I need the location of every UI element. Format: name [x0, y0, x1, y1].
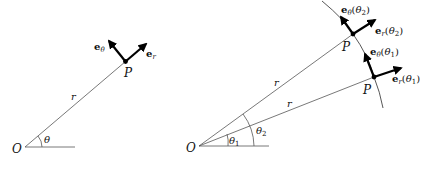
radius-line-2	[199, 34, 353, 146]
point2-label: P	[341, 40, 351, 54]
radius-label: r	[71, 91, 77, 102]
point1-label: P	[362, 83, 372, 97]
theta2-label: θ2	[256, 125, 267, 138]
e-theta-arrow	[109, 41, 126, 62]
e-theta-theta2-arrow	[341, 17, 353, 34]
e-theta-theta2-label: eθ(θ2)	[341, 4, 370, 17]
radius-line-1	[199, 77, 374, 146]
origin-label-2: O	[186, 141, 196, 155]
theta-arc	[38, 136, 42, 147]
e-r-arrow	[126, 44, 147, 62]
radius-line	[25, 62, 126, 148]
e-r-theta2-label: er(θ2)	[375, 25, 403, 38]
radius1-label: r	[287, 98, 293, 109]
theta-label: θ	[44, 134, 50, 145]
radius2-label: r	[274, 77, 280, 88]
point-p1-dot	[372, 75, 377, 80]
e-theta-theta1-arrow	[365, 54, 374, 77]
e-r-theta2-arrow	[353, 20, 375, 34]
point-p2-dot	[351, 32, 356, 37]
point-label: P	[123, 66, 133, 80]
e-r-theta1-label: er(θ1)	[392, 73, 420, 86]
left-figure: O P r θ eθ er	[12, 41, 156, 156]
polar-basis-diagram: O P r θ eθ er O P P r r θ1 θ2 eθ(θ2) er(	[0, 0, 444, 171]
theta2-arc	[243, 114, 254, 146]
origin-label: O	[12, 142, 22, 156]
e-theta-label: eθ	[94, 41, 105, 54]
right-figure: O P P r r θ1 θ2 eθ(θ2) er(θ2) eθ(θ1) er(…	[186, 1, 420, 155]
point-p-dot	[123, 59, 128, 64]
e-r-label: er	[146, 48, 156, 61]
e-theta-theta1-label: eθ(θ1)	[370, 46, 399, 59]
